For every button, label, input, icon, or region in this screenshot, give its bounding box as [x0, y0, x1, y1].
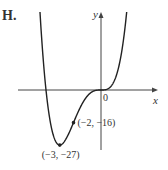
data-point	[72, 121, 76, 125]
origin-label: 0	[103, 92, 108, 103]
y-axis-arrow-icon	[99, 12, 104, 18]
data-point-label: (−3, −27)	[42, 149, 80, 161]
chart: x y 0 (−2, −16)(−3, −27)	[0, 0, 168, 170]
data-point	[58, 143, 62, 147]
data-point-label: (−2, −16)	[78, 117, 116, 129]
x-axis-label: x	[152, 94, 158, 106]
x-axis-arrow-icon	[152, 88, 158, 93]
y-axis-label: y	[92, 8, 98, 20]
